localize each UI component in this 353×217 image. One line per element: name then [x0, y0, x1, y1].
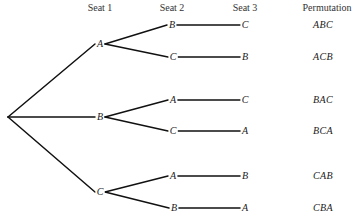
permutation-label: CBA [313, 202, 333, 214]
seat3-node: A [241, 125, 249, 137]
header-permutation: Permutation [303, 2, 352, 14]
seat1-node-c: C [96, 186, 105, 198]
seat2-node: B [168, 19, 176, 31]
seat2-node: C [169, 125, 178, 137]
header-seat-3: Seat 3 [233, 2, 258, 14]
tree-edges [0, 0, 353, 217]
permutation-label: ABC [313, 19, 333, 31]
seat3-node: B [241, 170, 249, 182]
seat1-node-a: A [96, 38, 104, 50]
seat2-node: A [169, 170, 177, 182]
seat3-node: B [241, 51, 249, 63]
seat3-node: A [241, 202, 249, 214]
permutation-label: BAC [313, 94, 333, 106]
seat2-node: A [169, 94, 177, 106]
seat3-node: C [241, 19, 250, 31]
permutation-tree-diagram: Seat 1 Seat 2 Seat 3 Permutation A B C B… [0, 0, 353, 217]
permutation-label: CAB [313, 170, 333, 182]
seat2-node: C [169, 51, 178, 63]
permutation-label: BCA [313, 125, 333, 137]
seat1-node-b: B [96, 111, 104, 123]
header-seat-2: Seat 2 [160, 2, 185, 14]
header-seat-1: Seat 1 [88, 2, 113, 14]
permutation-label: ACB [313, 51, 333, 63]
seat2-node: B [170, 202, 178, 214]
seat3-node: C [241, 94, 250, 106]
